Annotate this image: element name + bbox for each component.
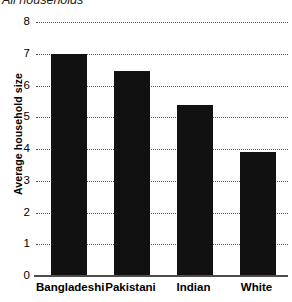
y-tick-label: 7 (8, 48, 30, 60)
x-tick-label: Bangladeshi (36, 280, 99, 294)
x-axis-line (34, 275, 288, 277)
bar (177, 105, 213, 276)
plot-area: 012345678 (36, 22, 288, 276)
y-tick-label: 5 (8, 111, 30, 123)
x-tick-label: Indian (162, 280, 225, 294)
chart-title: All households (2, 0, 83, 7)
x-tick-label: White (225, 280, 288, 294)
x-axis-labels: BangladeshiPakistaniIndianWhite (36, 280, 288, 300)
y-tick-label: 8 (8, 16, 30, 28)
y-tick-label: 4 (8, 143, 30, 155)
chart-figure: All households Average household size 01… (0, 0, 292, 302)
y-axis-title: Average household size (12, 34, 24, 234)
y-tick-label: 3 (8, 175, 30, 187)
y-tick-label: 6 (8, 80, 30, 92)
gridline (36, 22, 288, 23)
bar (114, 71, 150, 276)
y-tick-label: 0 (8, 270, 30, 282)
bar (240, 152, 276, 276)
y-tick-label: 2 (8, 207, 30, 219)
bar (51, 54, 87, 276)
y-tick-label: 1 (8, 238, 30, 250)
x-tick-label: Pakistani (99, 280, 162, 294)
